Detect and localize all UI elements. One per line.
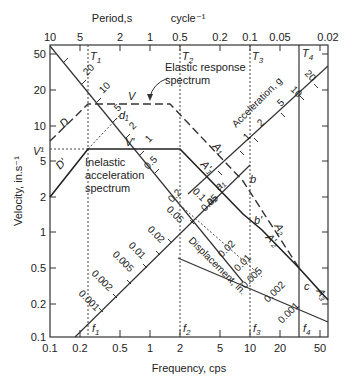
top-axis-title-period: Period,s — [92, 12, 133, 24]
y-tick-label: 10 — [34, 120, 46, 132]
label-Vp: V' — [125, 136, 135, 148]
acc-value: 20 — [303, 68, 319, 84]
label-Dp: D' — [53, 155, 69, 171]
label-T1: T1 — [90, 50, 101, 65]
acc-value: 5 — [275, 96, 287, 108]
label-V: V — [128, 90, 137, 102]
top-axis-tick-labels: 10 5 2 1 0.5 0.2 0.1 0.05 0.02 — [44, 31, 339, 43]
x-tick-label: 50 — [314, 342, 326, 354]
label-bp: b' — [254, 214, 263, 226]
x-tick-label: 2 — [177, 342, 183, 354]
top-tick-label: 1 — [147, 31, 153, 43]
y-tick-label: 0.1 — [31, 331, 46, 343]
x-axis-tick-labels: 0.1 0.2 0.5 1 2 5 10 20 50 — [42, 342, 326, 354]
label-T4: T4 — [302, 47, 314, 62]
x-tick-label: 5 — [217, 342, 223, 354]
top-tick-label: 0.05 — [269, 31, 290, 43]
label-f3: f3 — [253, 322, 261, 337]
y-tick-label: 50 — [34, 48, 46, 60]
top-axis-title-cycle: cycle⁻¹ — [171, 12, 206, 24]
acc-value: 10 — [289, 84, 305, 100]
disp-value: 0.02 — [216, 238, 238, 260]
y-axis-title: Velocity, in.s⁻¹ — [12, 156, 24, 226]
y-tick-label: 20 — [34, 84, 46, 96]
disp-value: 0.001 — [276, 300, 302, 326]
disp-value: 0.01 — [127, 240, 149, 262]
x-tick-label: 20 — [274, 342, 286, 354]
top-tick-label: 5 — [77, 31, 83, 43]
x-tick-label: 10 — [244, 342, 256, 354]
top-tick-label: 0.1 — [242, 31, 257, 43]
label-b: b — [250, 173, 256, 185]
right-axis-ticks — [322, 54, 328, 304]
x-tick-label: 0.1 — [42, 342, 57, 354]
x-tick-label: 1 — [147, 342, 153, 354]
label-T3: T3 — [252, 50, 264, 65]
annotation-inelastic-3: spectrum — [85, 182, 130, 194]
y-tick-label: 0.5 — [31, 262, 46, 274]
acc-value: 2 — [127, 119, 139, 131]
response-spectrum-chart: 0.1 0.2 0.5 1 2 5 10 20 50 Frequency, cp… — [0, 0, 353, 383]
top-tick-label: 10 — [44, 31, 56, 43]
top-tick-label: 0.5 — [172, 31, 187, 43]
label-V1: V¹ — [33, 145, 44, 157]
top-tick-label: 2 — [117, 31, 123, 43]
annotation-inelastic-2: acceleration — [85, 169, 144, 181]
label-A1: A₁ — [210, 139, 227, 156]
disp-value: 0.02 — [146, 224, 168, 246]
disp-value: 0.05 — [165, 204, 187, 226]
label-f4: f4 — [303, 322, 311, 337]
y-tick-label: 2 — [40, 191, 46, 203]
y-tick-label: 0.2 — [31, 298, 46, 310]
x-axis-title: Frequency, cps — [152, 362, 227, 374]
label-D: D — [57, 115, 71, 129]
acc-value: 10 — [97, 79, 113, 95]
y-axis-tick-labels: 50 20 10 5 2 1 0.5 0.2 0.1 — [31, 48, 46, 343]
disp-value: 0.002 — [90, 268, 116, 294]
label-A1p: A'₁ — [198, 157, 217, 176]
top-axis-ticks — [80, 45, 320, 51]
x-tick-label: 0.5 — [112, 342, 127, 354]
disp-value: 0.2 — [166, 186, 184, 204]
top-tick-label: 0.2 — [212, 31, 227, 43]
annotation-inelastic-1: Inelastic — [85, 156, 126, 168]
disp-value: 0.001 — [77, 288, 103, 314]
label-f2: f2 — [183, 322, 191, 337]
y-tick-label: 1 — [40, 226, 46, 238]
displacement-scale-values-a: 0.001 0.002 0.005 0.01 0.02 0.05 0.2 — [77, 186, 187, 313]
top-tick-label: 0.02 — [317, 31, 338, 43]
label-c: c — [304, 280, 310, 292]
disp-value: 0.002 — [262, 279, 288, 305]
label-f1: f1 — [92, 322, 100, 337]
y-axis-ticks — [50, 54, 56, 304]
x-tick-label: 0.2 — [72, 342, 87, 354]
acc-value: 1 — [143, 132, 155, 144]
acc-value: 20 — [81, 61, 97, 77]
annotation-elastic-1: Elastic response — [165, 61, 246, 73]
x-axis-ticks — [80, 330, 320, 337]
annotation-arrowhead-icon — [147, 94, 153, 101]
annotation-elastic-2: spectrum — [165, 74, 210, 86]
acc-value: 2 — [255, 116, 267, 128]
